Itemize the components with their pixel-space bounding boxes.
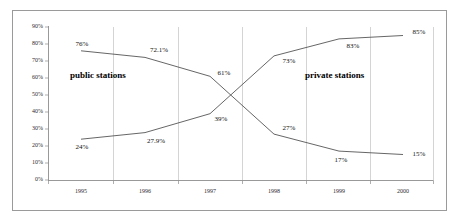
y-tick-label-90: 90% [21,23,43,29]
y-tick-label-80: 80% [21,40,43,46]
data-label-public-2000: 15% [407,150,431,158]
chart-root: 90% 80% 70% 60% 50% 40% 30% 20% 10% 0% 1… [0,0,457,222]
data-label-private-1995: 24% [70,143,94,151]
x-axis [48,181,434,185]
y-tick-label-40: 40% [21,108,43,114]
data-label-public-1996: 72.1% [144,46,174,54]
y-tick-label-0: 0% [21,176,43,182]
y-tick-label-70: 70% [21,57,43,63]
series-annotation-public-stations: public stations [70,70,126,80]
series-line-public-stations [81,51,403,155]
x-tick-label-1998: 1998 [254,188,294,194]
data-label-public-1998: 27% [277,124,301,132]
y-tick-label-30: 30% [21,125,43,131]
data-label-public-1999: 17% [329,156,353,164]
data-label-private-1996: 27.9% [141,137,171,145]
data-label-private-1998: 73% [277,57,301,65]
x-tick-label-1999: 1999 [319,188,359,194]
y-axis [45,26,49,181]
data-label-private-2000: 85% [407,28,431,36]
data-label-private-1997: 39% [209,115,233,123]
y-tick-label-20: 20% [21,142,43,148]
data-label-private-1999: 83% [341,42,365,50]
series-annotation-private-stations: private stations [305,70,364,80]
y-tick-label-50: 50% [21,91,43,97]
data-label-public-1995: 76% [70,40,94,48]
x-tick-label-1995: 1995 [61,188,101,194]
data-label-public-1997: 61% [212,69,236,77]
y-tick-label-10: 10% [21,159,43,165]
x-tick-label-1997: 1997 [190,188,230,194]
y-tick-label-60: 60% [21,74,43,80]
x-tick-label-1996: 1996 [125,188,165,194]
x-tick-label-2000: 2000 [383,188,423,194]
series-line-private-stations [81,36,403,140]
